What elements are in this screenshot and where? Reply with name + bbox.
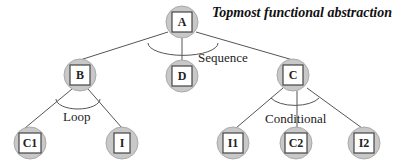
node-a: A [166, 6, 198, 38]
conditional-label: Conditional [265, 111, 327, 126]
sequence-label: Sequence [198, 50, 248, 65]
node-i1: I1 [217, 127, 249, 159]
svg-text:B: B [76, 68, 84, 82]
svg-text:C2: C2 [289, 136, 304, 150]
svg-text:A: A [178, 15, 187, 29]
diagram-title: Topmost functional abstraction [212, 5, 392, 20]
loop-arc [56, 99, 100, 109]
svg-text:I: I [120, 136, 125, 150]
node-c1: C1 [14, 127, 46, 159]
node-c: C [277, 59, 309, 91]
node-d: D [166, 60, 198, 92]
svg-text:D: D [178, 69, 187, 83]
loop-label: Loop [63, 109, 90, 124]
edge-a-b [80, 32, 168, 60]
svg-text:C1: C1 [23, 136, 38, 150]
edge-b-i [88, 89, 122, 128]
node-c2: C2 [280, 127, 312, 159]
node-i: I [106, 127, 138, 159]
svg-text:I2: I2 [359, 136, 370, 150]
structure-chart: Sequence Loop Conditional Topmost functi… [0, 0, 397, 168]
node-i2: I2 [348, 127, 380, 159]
svg-text:I1: I1 [228, 136, 239, 150]
node-b: B [64, 59, 96, 91]
conditional-arc [271, 98, 319, 105]
svg-text:C: C [289, 68, 298, 82]
